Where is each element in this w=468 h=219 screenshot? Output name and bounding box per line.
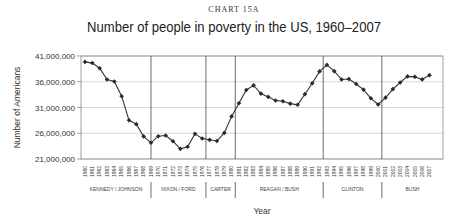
x-tick-label: 1964 — [111, 166, 117, 177]
era-label: REAGAN / BUSH — [260, 186, 300, 192]
data-point-marker — [134, 122, 139, 127]
x-tick-label: 1993 — [324, 166, 330, 177]
line-chart: 41,000,00036,000,00031,000,00026,000,000… — [0, 0, 468, 219]
x-tick-label: 1996 — [346, 166, 352, 177]
x-tick-label: 1999 — [368, 166, 374, 177]
x-tick-label: 2001 — [382, 166, 388, 177]
x-tick-label: 1994 — [331, 166, 337, 177]
x-tick-label: 1997 — [353, 166, 359, 177]
x-tick-label: 1965 — [118, 166, 124, 177]
x-tick-label: 1992 — [316, 166, 322, 177]
x-tick-label: 1988 — [287, 166, 293, 177]
x-tick-label: 1973 — [177, 166, 183, 177]
x-tick-label: 1976 — [199, 166, 205, 177]
x-tick-label: 1989 — [294, 166, 300, 177]
x-tick-label: 1963 — [104, 166, 110, 177]
era-label: CLINTON — [342, 186, 364, 192]
x-tick-label: 1969 — [148, 166, 154, 177]
x-tick-label: 1978 — [214, 166, 220, 177]
x-tick-label: 1982 — [243, 166, 249, 177]
x-tick-label: 1961 — [89, 166, 95, 177]
x-tick-label: 2002 — [390, 166, 396, 177]
y-tick-label: 26,000,000 — [35, 129, 76, 138]
data-point-marker — [112, 79, 117, 84]
data-point-marker — [229, 114, 234, 119]
x-tick-label: 1985 — [265, 166, 271, 177]
data-point-marker — [413, 75, 418, 80]
data-point-marker — [207, 138, 212, 143]
data-point-marker — [281, 99, 286, 104]
x-tick-label: 2004 — [404, 166, 410, 177]
data-point-marker — [273, 98, 278, 103]
x-tick-label: 1960 — [82, 166, 88, 177]
x-tick-label: 1991 — [309, 166, 315, 177]
x-tick-label: 1980 — [228, 166, 234, 177]
data-point-marker — [266, 95, 271, 100]
x-tick-label: 1962 — [96, 166, 102, 177]
era-label: BUSH — [405, 186, 419, 192]
data-point-marker — [427, 73, 432, 78]
x-tick-label: 2000 — [375, 166, 381, 177]
x-tick-label: 1998 — [360, 166, 366, 177]
y-tick-label: 21,000,000 — [35, 155, 76, 164]
y-axis-label: Number of Americans — [12, 67, 22, 149]
x-tick-label: 1984 — [258, 166, 264, 177]
x-tick-label: 2006 — [419, 166, 425, 177]
data-point-marker — [119, 94, 124, 99]
x-tick-label: 1987 — [280, 166, 286, 177]
data-point-marker — [185, 144, 190, 149]
x-tick-label: 1968 — [140, 166, 146, 177]
data-point-marker — [127, 118, 132, 123]
x-tick-label: 2007 — [426, 166, 432, 177]
y-tick-label: 36,000,000 — [35, 78, 76, 87]
data-point-marker — [83, 60, 88, 65]
era-label: KENNEDY / JOHNSON — [90, 186, 143, 192]
x-tick-label: 1983 — [250, 166, 256, 177]
x-tick-label: 1966 — [126, 166, 132, 177]
x-tick-label: 1981 — [236, 166, 242, 177]
x-tick-label: 1970 — [155, 166, 161, 177]
x-tick-label: 1979 — [221, 166, 227, 177]
x-tick-label: 1977 — [206, 166, 212, 177]
x-tick-label: 1974 — [184, 166, 190, 177]
y-tick-label: 41,000,000 — [35, 52, 76, 61]
x-tick-label: 1995 — [338, 166, 344, 177]
x-axis-label: Year — [253, 206, 270, 216]
data-point-marker — [420, 77, 425, 82]
y-tick-label: 31,000,000 — [35, 104, 76, 113]
x-tick-label: 1967 — [133, 166, 139, 177]
x-tick-label: 1990 — [302, 166, 308, 177]
x-tick-label: 1975 — [192, 166, 198, 177]
x-tick-label: 2003 — [397, 166, 403, 177]
data-point-marker — [288, 101, 293, 106]
x-tick-label: 1971 — [162, 166, 168, 177]
x-tick-label: 1986 — [272, 166, 278, 177]
data-point-marker — [237, 101, 242, 106]
x-tick-label: 2005 — [412, 166, 418, 177]
era-label: NIXON / FORD — [161, 186, 196, 192]
x-tick-label: 1972 — [170, 166, 176, 177]
era-label: CARTER — [210, 186, 231, 192]
